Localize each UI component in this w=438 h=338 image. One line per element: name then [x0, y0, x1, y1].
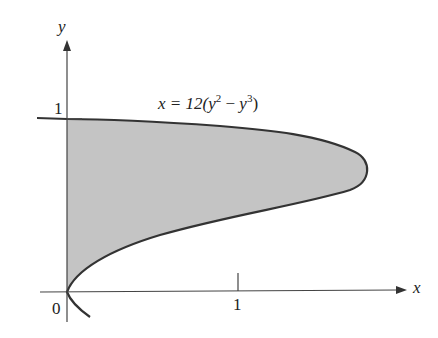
region-diagram [0, 0, 438, 338]
eq-suffix: ) [252, 94, 258, 113]
y-axis-label: y [58, 18, 66, 35]
eq-y2: y [239, 94, 247, 113]
x-axis-arrow-icon [396, 286, 407, 294]
y-tick-1-label: 1 [54, 100, 63, 117]
x-axis [40, 290, 398, 292]
eq-prefix: x = 12( [158, 94, 208, 113]
origin-label: 0 [52, 300, 61, 317]
shaded-region [67, 119, 367, 292]
eq-minus: − [221, 94, 239, 113]
x-axis-label: x [413, 279, 421, 296]
y-axis-arrow-icon [63, 40, 71, 51]
curve-equation: x = 12(y2 − y3) [158, 92, 258, 114]
eq-y1: y [208, 94, 216, 113]
x-tick-1-label: 1 [233, 296, 242, 313]
